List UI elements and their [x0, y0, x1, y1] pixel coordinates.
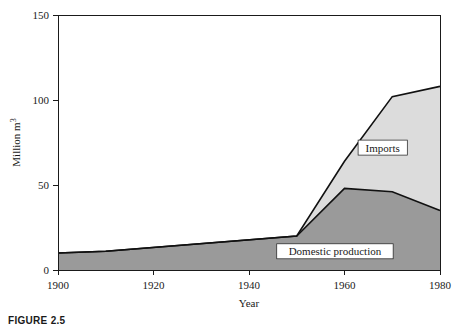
- x-tick-label: 1980: [429, 279, 452, 291]
- x-tick-label: 1900: [47, 279, 70, 291]
- x-axis-ticks: 19001920194019601980: [47, 270, 452, 291]
- x-tick-label: 1940: [238, 279, 261, 291]
- x-tick-label: 1960: [334, 279, 357, 291]
- y-tick-label: 0: [44, 264, 50, 276]
- plot-areas: [58, 86, 440, 270]
- y-axis-title: Million m3: [9, 118, 22, 166]
- y-tick-label: 50: [38, 179, 50, 191]
- y-tick-label: 150: [33, 9, 50, 21]
- annotation-label: Imports: [366, 142, 400, 154]
- series-annotation: Domestic production: [277, 244, 393, 259]
- annotation-label: Domestic production: [289, 245, 382, 257]
- series-annotation: Imports: [358, 140, 407, 155]
- x-tick-label: 1920: [143, 279, 166, 291]
- y-axis-ticks: 050100150: [33, 9, 59, 276]
- figure-caption: FIGURE 2.5: [8, 315, 65, 326]
- y-tick-label: 100: [33, 94, 50, 106]
- x-axis-title: Year: [239, 297, 260, 309]
